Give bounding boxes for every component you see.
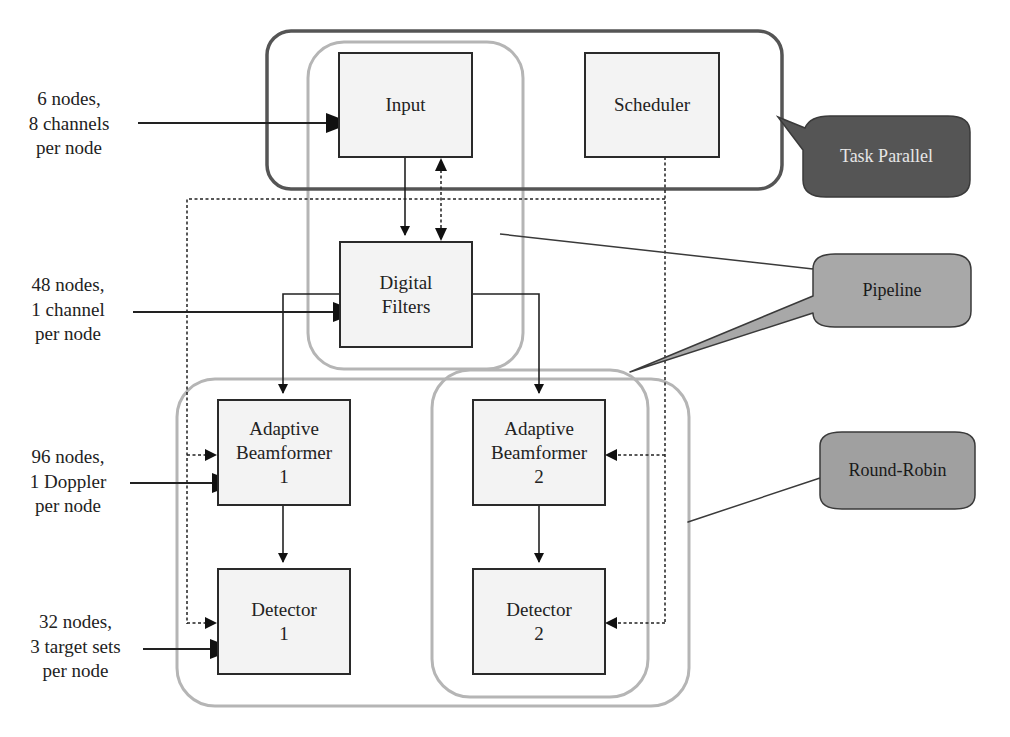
input-block-label: Input bbox=[385, 93, 425, 117]
label-line: 8 channels bbox=[14, 112, 124, 137]
round-robin-label: Round-Robin bbox=[820, 432, 975, 509]
digital-filters-label-line2: Filters bbox=[382, 295, 431, 319]
label-line: per node bbox=[18, 322, 118, 347]
abf1-label-line3: 1 bbox=[279, 465, 289, 489]
digital-filters-label-line1: Digital bbox=[380, 271, 433, 295]
detector-side-label: 32 nodes, 3 target sets per node bbox=[8, 610, 143, 684]
digital-filters-block: Digital Filters bbox=[339, 241, 473, 348]
detector-2-block: Detector 2 bbox=[472, 568, 606, 675]
digital-filters-side-label: 48 nodes, 1 channel per node bbox=[18, 273, 118, 347]
det1-label-line2: 1 bbox=[279, 622, 289, 646]
abf2-label-line2: Beamformer bbox=[491, 441, 587, 465]
label-line: 32 nodes, bbox=[8, 610, 143, 635]
label-line: per node bbox=[18, 494, 118, 519]
adaptive-beamformer-1-block: Adaptive Beamformer 1 bbox=[217, 399, 351, 506]
pipeline-label: Pipeline bbox=[813, 254, 971, 327]
label-line: per node bbox=[8, 659, 143, 684]
abf-side-label: 96 nodes, 1 Doppler per node bbox=[18, 445, 118, 519]
input-block: Input bbox=[338, 52, 473, 158]
label-line: 6 nodes, bbox=[14, 87, 124, 112]
abf2-label-line3: 2 bbox=[534, 465, 544, 489]
input-side-label: 6 nodes, 8 channels per node bbox=[14, 87, 124, 161]
label-line: per node bbox=[14, 136, 124, 161]
abf1-label-line1: Adaptive bbox=[249, 417, 319, 441]
scheduler-block: Scheduler bbox=[584, 52, 720, 158]
abf2-label-line1: Adaptive bbox=[504, 417, 574, 441]
scheduler-block-label: Scheduler bbox=[614, 93, 690, 117]
det2-label-line2: 2 bbox=[534, 622, 544, 646]
label-line: 1 Doppler bbox=[18, 470, 118, 495]
abf1-label-line2: Beamformer bbox=[236, 441, 332, 465]
label-line: 1 channel bbox=[18, 298, 118, 323]
det2-label-line1: Detector bbox=[506, 598, 571, 622]
adaptive-beamformer-2-block: Adaptive Beamformer 2 bbox=[472, 399, 606, 506]
label-line: 48 nodes, bbox=[18, 273, 118, 298]
label-line: 96 nodes, bbox=[18, 445, 118, 470]
task-parallel-label: Task Parallel bbox=[803, 116, 970, 197]
label-line: 3 target sets bbox=[8, 635, 143, 660]
detector-1-block: Detector 1 bbox=[217, 568, 351, 675]
det1-label-line1: Detector bbox=[251, 598, 316, 622]
